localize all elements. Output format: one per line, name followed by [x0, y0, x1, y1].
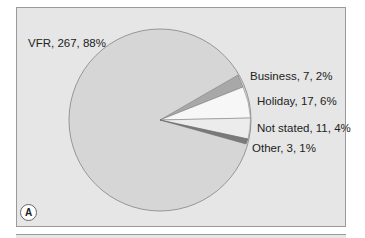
label-not-stated: Not stated, 11, 4% — [257, 122, 351, 134]
pie-chart — [0, 0, 365, 238]
label-holiday: Holiday, 17, 6% — [257, 95, 337, 107]
panel-label-badge: A — [20, 204, 37, 221]
label-other: Other, 3, 1% — [252, 142, 316, 154]
label-business: Business, 7, 2% — [250, 70, 332, 82]
label-vfr: VFR, 267, 88% — [28, 37, 106, 49]
